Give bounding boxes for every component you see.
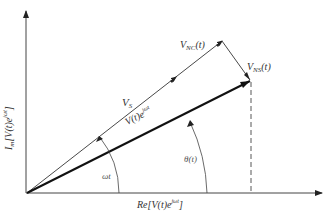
omega-t-label: ωt [102, 172, 111, 181]
vt-vector [27, 81, 250, 193]
vnc-label: VNC(t) [180, 40, 205, 52]
y-axis-label: Im[V(t)ejωt] [2, 106, 16, 150]
vns-label: VNS(t) [247, 62, 271, 74]
x-axis-label: Re[V(t)ejωt] [137, 198, 183, 210]
vs-label: VS [122, 97, 132, 110]
phasor-diagram [0, 0, 333, 215]
theta-label: θ(t) [184, 155, 197, 164]
omega-t-arc [99, 136, 119, 193]
